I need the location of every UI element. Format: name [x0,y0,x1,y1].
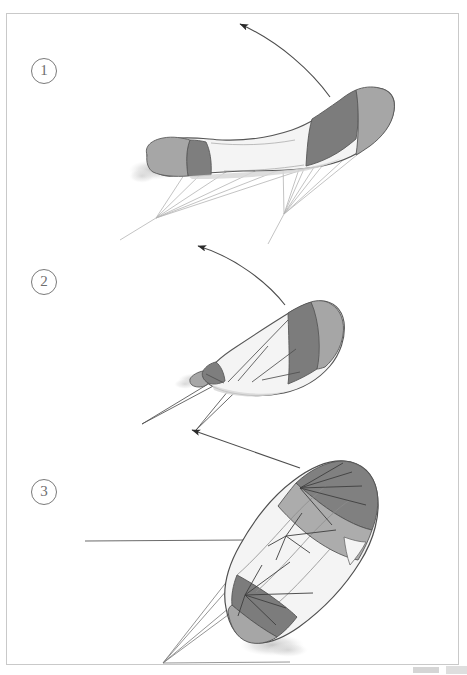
canopy-1 [146,87,394,179]
step-marker-2: 2 [31,269,57,295]
canopy-2 [190,301,345,397]
canopy-3 [225,461,378,643]
motion-arrow-1 [240,24,330,97]
panel-2-kite [142,246,344,430]
motion-arrow-3 [192,430,300,468]
motion-arrow-2 [198,246,285,305]
scan-artifact-marks [413,666,467,674]
kite-launch-illustration [0,0,467,675]
panel-3-kite [85,430,378,663]
panel-1-kite [120,24,394,244]
step-marker-1: 1 [31,58,57,84]
figure-page: 1 2 3 [0,0,467,675]
step-marker-3: 3 [31,479,57,505]
